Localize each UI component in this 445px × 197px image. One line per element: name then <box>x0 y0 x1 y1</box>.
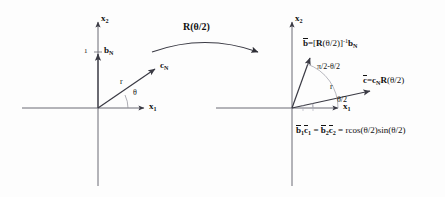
right-upper-angle-label: π/2-θ/2 <box>317 63 340 71</box>
left-x-axis-label: x1 <box>149 102 157 111</box>
left-y-axis-label: x2 <box>101 14 109 23</box>
vector-label-b-n: bN <box>104 46 113 55</box>
left-radius-label: r <box>120 78 123 86</box>
left-theta-label: θ <box>133 89 137 97</box>
rotation-arrow-group <box>152 43 258 53</box>
vector-c-bar <box>292 91 370 108</box>
left-theta-arc <box>125 95 128 108</box>
equation-inner-product-identity: b1c1 = b2c2 = rcos(θ/2)sin(θ/2) <box>296 126 406 135</box>
equation-b-bar: b=[R(θ/2)]-1bN <box>303 39 357 48</box>
right-lower-angle-label: θ/2 <box>337 96 347 104</box>
right-y-axis-label: x2 <box>295 14 303 23</box>
left-axes <box>22 22 144 186</box>
vector-b-bar <box>292 58 310 108</box>
rotation-curved-arrow <box>152 43 258 53</box>
figure-canvas: x2 x1 1 bN cN r θ R(θ/2) x2 x1 b=[R(θ/2)… <box>0 0 445 197</box>
rotation-operator-label: R(θ/2) <box>183 22 210 32</box>
left-vectors <box>98 54 155 108</box>
vector-label-c-n: cN <box>160 61 168 70</box>
right-radius-label: r <box>330 83 333 91</box>
vector-c-n-left <box>98 69 155 108</box>
equation-c-bar: c=cNR(θ/2) <box>363 76 404 85</box>
left-unit-tick-label: 1 <box>84 48 88 55</box>
figure-vector-layer <box>0 0 445 197</box>
